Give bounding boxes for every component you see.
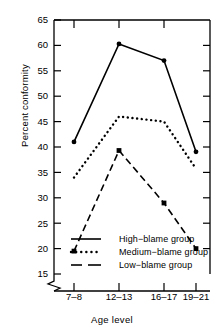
y-axis-ticks-right (203, 45, 210, 248)
y-axis-title: Percent conformity (19, 36, 30, 176)
x-tick-label: 7–8 (52, 292, 96, 302)
chart-figure: 65 60 55 50 45 40 35 30 25 20 15 7–8 12–… (0, 0, 224, 335)
axis-break-icon (48, 274, 60, 291)
y-tick-label: 65 (22, 15, 48, 25)
y-tick-label: 20 (22, 244, 48, 254)
legend-label: Medium−blame group (119, 247, 208, 257)
y-tick-label: 30 (22, 193, 48, 203)
legend-label: High−blame group (119, 234, 194, 244)
y-tick-label: 15 (22, 269, 48, 279)
x-axis-title: Age level (0, 314, 224, 325)
legend-label: Low−blame group (119, 260, 192, 270)
y-axis-ticks (54, 20, 61, 274)
legend-keys (71, 239, 101, 265)
x-tick-label: 12–13 (97, 292, 141, 302)
series-high-blame (72, 42, 199, 155)
y-tick-label: 25 (22, 219, 48, 229)
x-tick-label: 19–21 (174, 292, 218, 302)
